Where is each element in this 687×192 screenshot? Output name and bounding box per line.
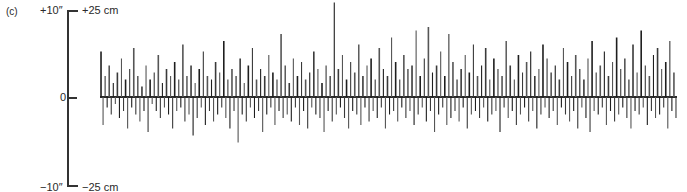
spike-plot [0, 0, 687, 192]
